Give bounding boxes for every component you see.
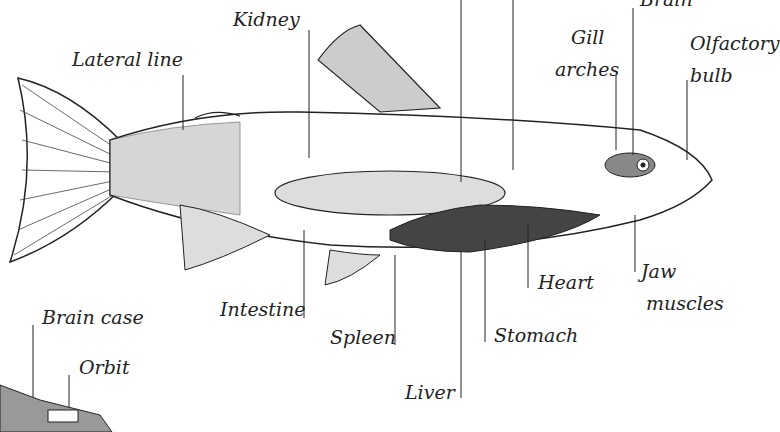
label-stomach: Stomach [494,326,578,345]
label-lateral-line: Lateral line [72,50,183,69]
label-orbit: Orbit [79,358,130,377]
label-liver: Liver [405,383,455,402]
label-jaw-muscles-2: muscles [646,294,724,313]
label-spleen: Spleen [330,328,396,347]
label-jaw-muscles-1: Jaw [641,262,676,281]
label-intestine: Intestine [220,300,306,319]
label-brain: Brain [640,0,693,9]
label-gill-arches-1: Gill [571,28,604,47]
label-olfactory-bulb-2: bulb [690,66,733,85]
label-heart: Heart [538,273,594,292]
label-brain-case: Brain case [42,308,144,327]
label-olfactory-bulb-1: Olfactory [690,34,780,53]
label-kidney: Kidney [233,10,300,29]
label-gill-arches-2: arches [555,60,619,79]
